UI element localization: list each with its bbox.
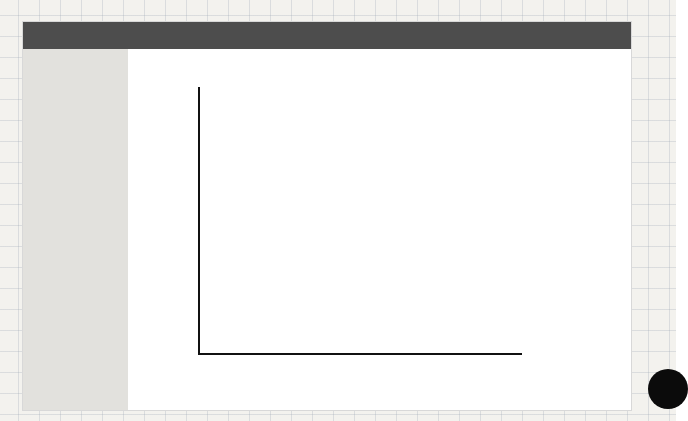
y-axis-ticks — [144, 49, 174, 369]
plot-axes — [198, 87, 520, 354]
infographic-card — [23, 22, 631, 410]
corner-dot-decoration — [648, 369, 688, 409]
card-title-bar — [23, 22, 631, 49]
source-citation — [158, 366, 618, 379]
description-sidebar — [23, 49, 128, 410]
series-lines — [198, 87, 520, 354]
chart-area — [128, 49, 631, 410]
source-separator — [128, 360, 631, 361]
